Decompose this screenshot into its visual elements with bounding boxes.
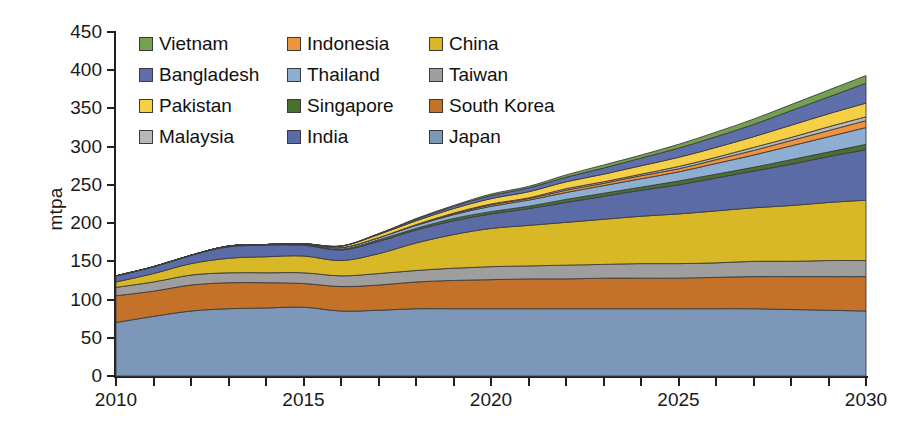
legend-label: Japan xyxy=(449,127,501,146)
legend-label: South Korea xyxy=(449,96,555,115)
legend-item-india[interactable]: India xyxy=(287,127,429,146)
legend-item-china[interactable]: China xyxy=(429,34,589,53)
legend-item-south-korea[interactable]: South Korea xyxy=(429,96,589,115)
legend-swatch-icon xyxy=(139,37,153,51)
legend-swatch-icon xyxy=(139,68,153,82)
legend-row: MalaysiaIndiaJapan xyxy=(139,121,589,152)
legend-swatch-icon xyxy=(429,37,443,51)
legend-swatch-icon xyxy=(287,130,301,144)
legend-label: Pakistan xyxy=(159,96,232,115)
legend-swatch-icon xyxy=(139,130,153,144)
legend-item-pakistan[interactable]: Pakistan xyxy=(139,96,287,115)
legend-item-bangladesh[interactable]: Bangladesh xyxy=(139,65,287,84)
legend-swatch-icon xyxy=(287,68,301,82)
legend-item-taiwan[interactable]: Taiwan xyxy=(429,65,589,84)
legend-swatch-icon xyxy=(429,99,443,113)
legend-swatch-icon xyxy=(429,130,443,144)
legend-swatch-icon xyxy=(429,68,443,82)
legend-label: China xyxy=(449,34,499,53)
legend-label: India xyxy=(307,127,348,146)
legend-label: Thailand xyxy=(307,65,380,84)
legend-label: Bangladesh xyxy=(159,65,259,84)
legend-item-singapore[interactable]: Singapore xyxy=(287,96,429,115)
legend-swatch-icon xyxy=(287,99,301,113)
chart-legend: VietnamIndonesiaChinaBangladeshThailandT… xyxy=(139,28,589,152)
legend-row: BangladeshThailandTaiwan xyxy=(139,59,589,90)
legend-label: Vietnam xyxy=(159,34,228,53)
legend-label: Singapore xyxy=(307,96,394,115)
legend-item-vietnam[interactable]: Vietnam xyxy=(139,34,287,53)
legend-item-japan[interactable]: Japan xyxy=(429,127,589,146)
legend-item-malaysia[interactable]: Malaysia xyxy=(139,127,287,146)
legend-label: Indonesia xyxy=(307,34,389,53)
legend-row: VietnamIndonesiaChina xyxy=(139,28,589,59)
legend-label: Malaysia xyxy=(159,127,234,146)
legend-row: PakistanSingaporeSouth Korea xyxy=(139,90,589,121)
area-series-japan xyxy=(116,307,866,376)
legend-label: Taiwan xyxy=(449,65,508,84)
legend-swatch-icon xyxy=(287,37,301,51)
legend-item-indonesia[interactable]: Indonesia xyxy=(287,34,429,53)
chart-figure: mtpa 050100150200250300350400450 2010201… xyxy=(0,0,916,424)
legend-item-thailand[interactable]: Thailand xyxy=(287,65,429,84)
legend-swatch-icon xyxy=(139,99,153,113)
